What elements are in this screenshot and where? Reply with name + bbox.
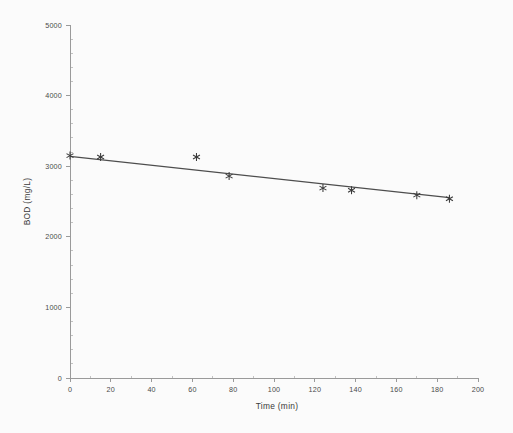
y-axis-tick-label: 4000: [45, 91, 62, 100]
x-axis-tick-label: 20: [107, 385, 115, 394]
chart-figure: 0100020003000400050000204060801001201401…: [0, 0, 513, 433]
data-point-marker: [446, 195, 453, 203]
y-axis-title: BOD (mg/L): [22, 178, 32, 226]
data-point-marker: [413, 191, 420, 199]
y-axis-tick-label: 3000: [45, 162, 62, 171]
x-axis-tick-label: 100: [268, 385, 281, 394]
data-point-marker: [67, 152, 74, 160]
y-axis-tick-label: 0: [58, 374, 62, 383]
y-axis-tick-label: 2000: [45, 232, 62, 241]
x-axis-tick-label: 80: [229, 385, 237, 394]
chart-canvas: 0100020003000400050000204060801001201401…: [0, 0, 513, 433]
x-axis-tick-label: 60: [188, 385, 196, 394]
y-axis-tick-label: 1000: [45, 303, 62, 312]
x-axis-tick-label: 140: [349, 385, 362, 394]
x-axis-tick-label: 120: [309, 385, 322, 394]
trendline: [70, 156, 449, 197]
x-axis-tick-label: 0: [68, 385, 72, 394]
x-axis-tick-label: 200: [472, 385, 485, 394]
data-point-marker: [319, 184, 326, 192]
x-axis-title: Time (min): [256, 401, 299, 411]
y-axis-tick-label: 5000: [45, 21, 62, 30]
x-axis-tick-label: 40: [147, 385, 155, 394]
x-axis-tick-label: 180: [431, 385, 444, 394]
data-point-marker: [193, 153, 200, 161]
x-axis-tick-label: 160: [390, 385, 403, 394]
